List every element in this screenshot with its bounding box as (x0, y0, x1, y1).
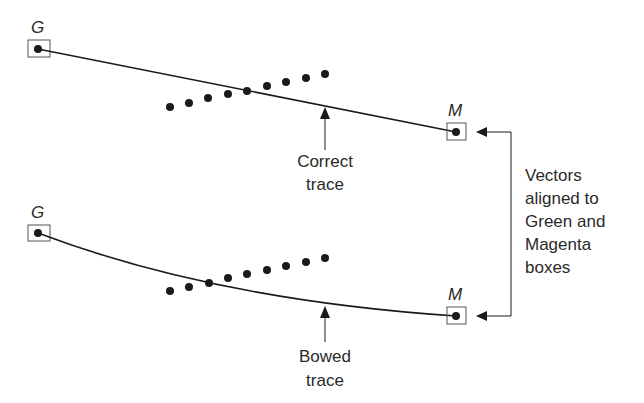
top-m-label: M (448, 101, 463, 120)
sample-dot (302, 258, 310, 266)
sample-dot (166, 103, 174, 111)
side-note-line1: Vectors (525, 166, 582, 185)
sample-dot (282, 262, 290, 270)
bottom-panel: G M Bowed trace (28, 203, 466, 390)
sample-dot (243, 270, 251, 278)
top-panel: G M Correct trace (28, 18, 466, 194)
sample-dot (166, 287, 174, 295)
bowed-trace-label-line2: trace (306, 371, 344, 390)
arrowhead-icon (320, 107, 330, 119)
top-dot-row (166, 70, 329, 111)
bracket-line (484, 132, 511, 316)
sample-dot (263, 266, 271, 274)
sample-dot (263, 82, 271, 90)
side-note-line2: aligned to (525, 189, 599, 208)
sample-dot (282, 78, 290, 86)
vector-alignment-bracket: Vectors aligned to Green and Magenta box… (476, 127, 605, 321)
bottom-magenta-dot (452, 312, 460, 320)
sample-dot (224, 274, 232, 282)
sample-dot (224, 90, 232, 98)
correct-trace-label-line1: Correct (297, 152, 353, 171)
bottom-m-label: M (448, 285, 463, 304)
diagram-canvas: G M Correct trace G M (0, 0, 644, 403)
trace-diagram: G M Correct trace G M (0, 0, 644, 403)
bottom-dot-row (166, 254, 329, 295)
arrowhead-left-icon (476, 127, 487, 137)
sample-dot (185, 283, 193, 291)
bowed-trace-label-line1: Bowed (299, 347, 351, 366)
sample-dot (321, 254, 329, 262)
side-note-line5: boxes (525, 258, 570, 277)
arrowhead-icon (320, 306, 330, 318)
arrowhead-left-icon (476, 311, 487, 321)
top-magenta-dot (452, 128, 460, 136)
sample-dot (321, 70, 329, 78)
sample-dot (243, 87, 251, 95)
sample-dot (185, 99, 193, 107)
sample-dot (204, 94, 212, 102)
top-g-label: G (31, 18, 44, 37)
side-note-line4: Magenta (525, 235, 592, 254)
sample-dot (205, 279, 213, 287)
bottom-g-label: G (31, 203, 44, 222)
correct-trace-label-line2: trace (306, 175, 344, 194)
sample-dot (302, 74, 310, 82)
side-note-line3: Green and (525, 212, 605, 231)
